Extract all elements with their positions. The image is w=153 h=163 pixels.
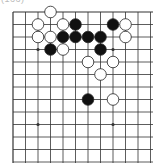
black-stone bbox=[57, 31, 69, 43]
white-stone bbox=[57, 19, 69, 31]
black-stone bbox=[95, 44, 107, 56]
black-stone bbox=[70, 31, 82, 43]
star-point bbox=[36, 48, 39, 51]
black-stone bbox=[82, 31, 94, 43]
white-stone bbox=[45, 6, 57, 18]
white-stone bbox=[45, 31, 57, 43]
black-stone bbox=[95, 31, 107, 43]
star-point bbox=[36, 123, 39, 126]
white-stone bbox=[120, 19, 132, 31]
black-stone bbox=[107, 19, 119, 31]
white-stone bbox=[32, 31, 44, 43]
black-stone bbox=[82, 94, 94, 106]
white-stone bbox=[82, 56, 94, 68]
go-board bbox=[0, 0, 153, 163]
white-stone bbox=[57, 44, 69, 56]
black-stone bbox=[70, 19, 82, 31]
white-stone bbox=[32, 19, 44, 31]
white-stone bbox=[107, 56, 119, 68]
star-point bbox=[111, 48, 114, 51]
black-stone bbox=[45, 44, 57, 56]
white-stone bbox=[107, 94, 119, 106]
star-point bbox=[111, 123, 114, 126]
white-stone bbox=[120, 31, 132, 43]
white-stone bbox=[95, 69, 107, 81]
